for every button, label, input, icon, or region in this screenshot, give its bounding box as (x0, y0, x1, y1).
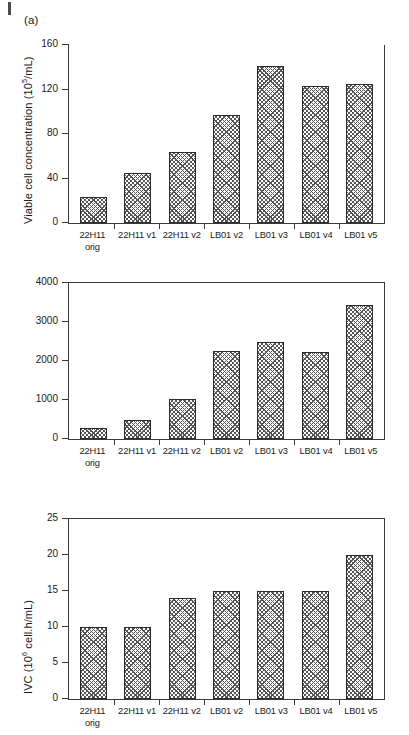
y-axis-title-a-suffix: /mL) (22, 56, 34, 78)
bar (169, 152, 196, 223)
x-axis-category-label-line1: LB01 v5 (344, 706, 377, 716)
bar-slot (204, 519, 248, 699)
bar (302, 591, 329, 699)
bar (124, 627, 151, 699)
y-axis-tick-label: 15 (47, 584, 58, 595)
bar (302, 352, 329, 439)
x-axis-category-label: LB01 v2 (204, 446, 249, 469)
y-axis-tick-label: 80 (47, 127, 58, 138)
bar (346, 555, 373, 699)
x-axis-category-label-line1: LB01 v5 (344, 446, 377, 456)
x-axis-category-label: LB01 v4 (294, 230, 339, 253)
y-axis-tick: 160 (62, 44, 69, 45)
x-axis-category-label-line1: LB01 v4 (299, 706, 332, 716)
x-axis-category-label-line1: LB01 v4 (299, 446, 332, 456)
x-axis-category-label: 22H11orig (70, 706, 115, 729)
bar (346, 84, 373, 223)
bar-slot (115, 45, 159, 223)
bar-slot (249, 519, 293, 699)
x-axis-tick (294, 699, 295, 705)
x-axis-tick (159, 699, 160, 705)
bar-slot (204, 283, 248, 439)
x-axis-category-label-line1: LB01 v3 (255, 230, 288, 240)
y-axis-tick-label: 5 (52, 656, 58, 667)
x-axis-category-label-line1: 22H11 v1 (118, 230, 156, 240)
y-axis-tick-label: 0 (52, 432, 58, 443)
y-axis-tick: 120 (62, 89, 69, 90)
x-axis-category-label: LB01 v2 (204, 706, 249, 729)
x-axis-category-label-line1: 22H11 v2 (163, 446, 201, 456)
x-axis-tick (159, 439, 160, 445)
x-axis-tick (204, 223, 205, 229)
y-axis-tick: 80 (62, 133, 69, 134)
bar (257, 342, 284, 439)
x-axis-category-label-line1: LB01 v2 (210, 706, 243, 716)
bar-group-c (69, 519, 384, 699)
x-axis-tick (204, 699, 205, 705)
x-axis-category-label: 22H11 v2 (159, 230, 204, 253)
x-axis-tick (204, 439, 205, 445)
y-axis-tick-label: 160 (41, 38, 58, 49)
y-axis-tick-label: 0 (52, 692, 58, 703)
bar (80, 197, 107, 223)
x-axis-category-label-line2: orig (70, 718, 115, 730)
x-axis-tick (339, 699, 340, 705)
x-axis-category-label-line2: orig (70, 242, 115, 254)
x-axis-tick (294, 223, 295, 229)
y-axis-tick-label: 4000 (36, 276, 58, 287)
y-axis-tick: 4000 (62, 282, 69, 283)
bar (124, 420, 151, 439)
y-axis-tick-label: 25 (47, 512, 58, 523)
y-axis-tick: 5 (62, 662, 69, 663)
x-axis-category-label: LB01 v4 (294, 446, 339, 469)
bar (169, 598, 196, 699)
x-axis-category-label: 22H11orig (70, 230, 115, 253)
bar-slot (160, 283, 204, 439)
y-axis-tick: 0 (62, 698, 69, 699)
bar-slot (293, 283, 337, 439)
x-axis-tick (249, 223, 250, 229)
x-axis-category-label: 22H11 v1 (115, 706, 160, 729)
y-axis-tick: 2000 (62, 360, 69, 361)
x-axis-category-label: 22H11 v2 (159, 446, 204, 469)
bar (124, 173, 151, 223)
chart-panel-a: (a) Viable cell concentration (105/mL) 0… (0, 0, 409, 262)
bar (213, 115, 240, 223)
x-axis-category-label-line1: 22H11 v2 (163, 706, 201, 716)
y-axis-tick-label: 0 (52, 216, 58, 227)
bar (213, 591, 240, 699)
x-axis-category-label: 22H11 v1 (115, 230, 160, 253)
plot-area-c: 0510152025 (68, 518, 385, 700)
x-axis-ticks-b (69, 439, 384, 445)
x-axis-category-label: LB01 v5 (338, 446, 383, 469)
x-axis-category-label-line1: LB01 v3 (255, 706, 288, 716)
x-axis-category-label: LB01 v3 (249, 230, 294, 253)
x-axis-labels-c: 22H11orig22H11 v122H11 v2LB01 v2LB01 v3L… (68, 706, 385, 729)
y-axis-tick: 3000 (62, 321, 69, 322)
y-axis-tick: 10 (62, 626, 69, 627)
x-axis-tick (249, 699, 250, 705)
x-axis-category-label: LB01 v3 (249, 446, 294, 469)
y-axis-title-a-exponent: 5 (20, 79, 29, 83)
y-axis-tick-label: 10 (47, 620, 58, 631)
x-axis-category-label-line1: 22H11 (79, 230, 105, 240)
x-axis-tick (294, 439, 295, 445)
bar (80, 627, 107, 699)
x-axis-category-label-line1: 22H11 v2 (163, 230, 201, 240)
y-axis-tick-label: 120 (41, 83, 58, 94)
bar (257, 66, 284, 223)
x-axis-ticks-c (69, 699, 384, 705)
y-axis-tick-label: 40 (47, 172, 58, 183)
panel-label-a: (a) (24, 14, 38, 26)
y-axis-tick: 0 (62, 222, 69, 223)
x-axis-category-label: LB01 v5 (338, 706, 383, 729)
x-axis-category-label-line1: 22H11 (79, 446, 105, 456)
bar-group-b (69, 283, 384, 439)
y-axis-tick-label: 1000 (36, 393, 58, 404)
x-axis-category-label: LB01 v4 (294, 706, 339, 729)
bar-slot (160, 519, 204, 699)
plot-area-b: 01000200030004000 (68, 282, 385, 440)
bar-slot (71, 519, 115, 699)
x-axis-tick (114, 699, 115, 705)
x-axis-category-label-line1: 22H11 v1 (118, 446, 156, 456)
